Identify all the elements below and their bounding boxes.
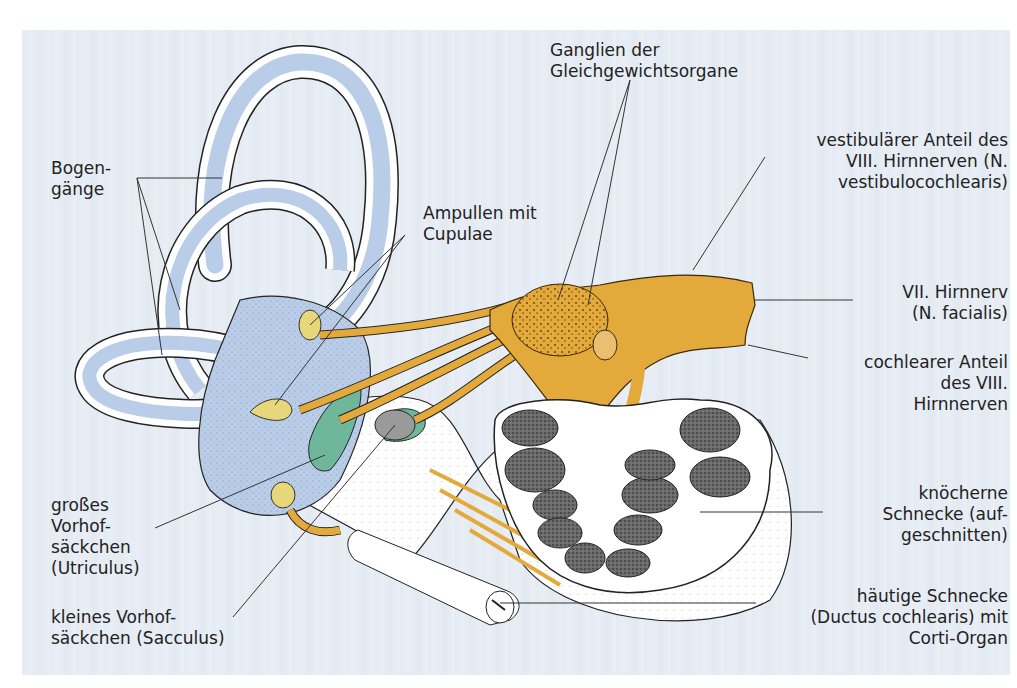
inner-ear-illustration	[0, 0, 1017, 688]
label-haeutige-schnecke: häutige Schnecke (Ductus cochlearis) mit…	[810, 586, 1008, 649]
label-cochlear-nerve: cochlearer Anteil des VIII. Hirnnerven	[864, 352, 1008, 415]
label-facial-nerve: VII. Hirnnerv (N. facialis)	[902, 282, 1008, 324]
label-utriculus: großes Vorhof- säckchen (Utriculus)	[51, 495, 140, 579]
label-sacculus: kleines Vorhof- säckchen (Sacculus)	[51, 607, 225, 649]
label-ganglien: Ganglien der Gleichgewichtsorgane	[550, 40, 738, 82]
label-ampullen: Ampullen mit Cupulae	[423, 203, 537, 245]
label-bogengaenge: Bogen- gänge	[51, 158, 111, 200]
label-vestibular-nerve: vestibulärer Anteil des VIII. Hirnnerven…	[817, 130, 1008, 193]
label-knoecherne-schnecke: knöcherne Schnecke (auf- geschnitten)	[882, 483, 1008, 546]
